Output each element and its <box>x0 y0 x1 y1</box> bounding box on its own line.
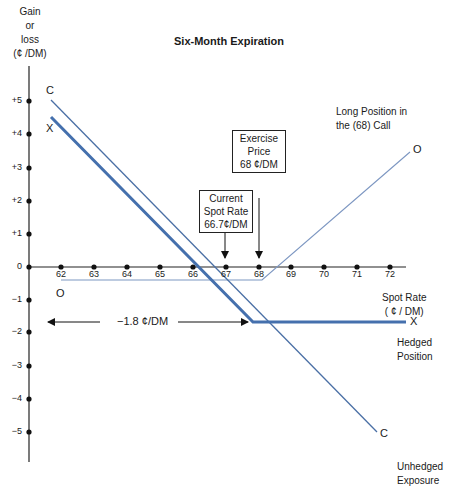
x-tick-label: 70 <box>314 269 334 279</box>
annot-line: Hedged <box>397 336 433 350</box>
chart-plot <box>0 0 450 490</box>
box-line: Price <box>236 145 282 158</box>
x-tick-label: 72 <box>380 269 400 279</box>
call-position-label: Long Position in the (68) Call <box>336 105 407 133</box>
unhedged-marker-start: C <box>46 84 54 96</box>
annot-line: Unhedged <box>397 460 443 474</box>
y-tick-label: 0 <box>0 261 22 271</box>
annot-line: Position <box>397 350 433 364</box>
y-tick-label: −2 <box>0 326 22 336</box>
spot-rate-box: Current Spot Rate 66.7¢/DM <box>199 190 253 233</box>
exercise-price-box: Exercise Price 68 ¢/DM <box>232 130 286 173</box>
x-tick-label: 69 <box>281 269 301 279</box>
hedged-position-label: Hedged Position <box>397 336 433 364</box>
y-tick-label: +3 <box>0 162 22 172</box>
box-line: Exercise <box>236 132 282 145</box>
y-tick-label: +2 <box>0 195 22 205</box>
x-tick-label: 66 <box>183 269 203 279</box>
hedged-marker-start: X <box>46 122 53 134</box>
unhedged-marker-end: C <box>380 427 388 439</box>
x-tick-label: 64 <box>117 269 137 279</box>
call-marker-end: O <box>413 143 422 155</box>
box-line: Current <box>203 192 249 205</box>
x-tick-label: 71 <box>347 269 367 279</box>
box-line: 68 ¢/DM <box>236 158 282 171</box>
unhedged-exposure-label: Unhedged Exposure <box>397 460 443 488</box>
y-tick-label: −5 <box>0 426 22 436</box>
y-tick-label: +5 <box>0 95 22 105</box>
annot-line: ( ¢ / DM) <box>382 305 426 319</box>
x-axis-label: Spot Rate ( ¢ / DM) <box>382 291 426 319</box>
call-marker-start: O <box>56 287 65 299</box>
annot-line: Spot Rate <box>382 291 426 305</box>
x-tick-label: 65 <box>150 269 170 279</box>
unhedged-line <box>51 100 377 432</box>
y-tick-label: +4 <box>0 128 22 138</box>
x-tick-label: 68 <box>249 269 269 279</box>
y-tick-label: −3 <box>0 360 22 370</box>
box-line: 66.7¢/DM <box>203 218 249 231</box>
y-tick-label: −4 <box>0 393 22 403</box>
annot-line: Exposure <box>397 474 443 488</box>
x-tick-label: 62 <box>51 269 71 279</box>
y-tick-label: +1 <box>0 228 22 238</box>
x-tick-label: 67 <box>216 269 236 279</box>
y-tick-label: −1 <box>0 294 22 304</box>
x-tick-label: 63 <box>84 269 104 279</box>
span-label: −1.8 ¢/DM <box>117 314 168 328</box>
annot-line: the (68) Call <box>336 119 407 133</box>
box-line: Spot Rate <box>203 205 249 218</box>
annot-line: Long Position in <box>336 105 407 119</box>
